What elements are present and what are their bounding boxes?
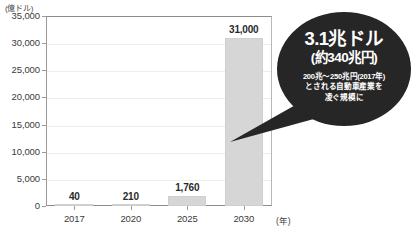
callout-subhead: (約340兆円) <box>277 50 411 66</box>
callout-note-line: とされる自動車産業を <box>277 82 411 93</box>
y-axis-tick-mark <box>42 97 46 98</box>
y-axis-tick-label: 25,000 <box>0 64 40 75</box>
y-axis-tick-label: 15,000 <box>0 119 40 130</box>
callout-note-line: 凌ぐ規模に <box>277 93 411 104</box>
y-axis-tick-label: 30,000 <box>0 37 40 48</box>
y-axis-tick-mark <box>42 152 46 153</box>
chart-container: (億ドル) 35,00030,00025,00020,00015,00010,0… <box>0 0 415 230</box>
y-axis-tick-label: 35,000 <box>0 10 40 21</box>
x-axis-tick-label: 2020 <box>106 213 156 224</box>
y-axis-tick-label: 0 <box>0 200 40 211</box>
y-axis-tick-mark <box>42 206 46 207</box>
callout-note: 200兆〜250兆円(2017年)とされる自動車産業を凌ぐ規模に <box>277 72 411 104</box>
x-axis-tick-label: 2030 <box>219 213 269 224</box>
y-axis-tick-mark <box>42 179 46 180</box>
x-axis-tick-label: 2017 <box>49 213 99 224</box>
bar-value-label: 40 <box>44 191 104 202</box>
bar <box>225 38 263 206</box>
y-axis-tick-mark <box>42 43 46 44</box>
x-axis-tick-mark <box>74 206 75 210</box>
x-axis-tick-mark <box>244 206 245 210</box>
bar-value-label: 31,000 <box>214 24 274 35</box>
callout-headline: 3.1兆ドル <box>277 29 411 48</box>
bar <box>168 196 206 206</box>
callout-note-line: 200兆〜250兆円(2017年) <box>277 72 411 83</box>
x-axis-tick-mark <box>187 206 188 210</box>
x-axis-unit-label: (年) <box>276 214 291 226</box>
bar-value-label: 1,760 <box>157 182 217 193</box>
y-axis-tick-mark <box>42 16 46 17</box>
bar-value-label: 210 <box>101 191 161 202</box>
callout-bubble: 3.1兆ドル (約340兆円) 200兆〜250兆円(2017年)とされる自動車… <box>277 12 411 126</box>
x-axis-tick-label: 2025 <box>162 213 212 224</box>
y-axis-tick-mark <box>42 125 46 126</box>
y-axis-tick-label: 10,000 <box>0 146 40 157</box>
y-axis-tick-label: 5,000 <box>0 173 40 184</box>
y-axis-tick-mark <box>42 70 46 71</box>
y-axis-tick-label: 20,000 <box>0 91 40 102</box>
x-axis-tick-mark <box>131 206 132 210</box>
